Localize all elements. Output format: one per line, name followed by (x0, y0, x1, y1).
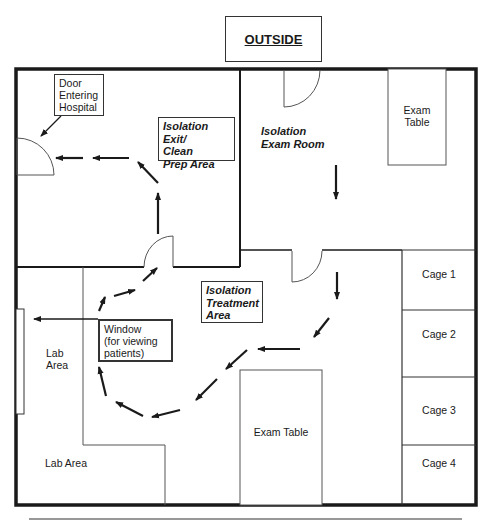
cage-3: Cage 3 (402, 404, 476, 416)
treatment-area-label: Isolation Treatment Area (201, 281, 263, 323)
cage-2: Cage 2 (402, 328, 476, 340)
exam-table-bottom-label: Exam Table (240, 426, 322, 438)
door-exit-treatment (144, 236, 173, 267)
outside-label: OUTSIDE (225, 16, 322, 62)
cage-4: Cage 4 (402, 457, 476, 469)
lab-walls (83, 267, 165, 505)
cage-1: Cage 1 (402, 268, 476, 280)
door-entering-callout: Door Entering Hospital (54, 74, 104, 116)
door-exam-outside (284, 70, 320, 107)
lab-area-lower-label: Lab Area (45, 457, 87, 469)
lab-area-upper-label: Lab Area (46, 347, 68, 371)
door-entering-hospital (17, 138, 54, 175)
window-viewing-callout: Window (for viewing patients) (98, 319, 173, 362)
wall-window (16, 309, 24, 414)
exam-room-label: Isolation Exam Room (261, 125, 325, 150)
exam-table-top-label: Exam Table (388, 104, 446, 128)
door-exam-treatment (292, 251, 322, 282)
door-pointer (41, 116, 61, 136)
exit-area-label: Isolation Exit/ Clean Prep Area (158, 117, 235, 161)
